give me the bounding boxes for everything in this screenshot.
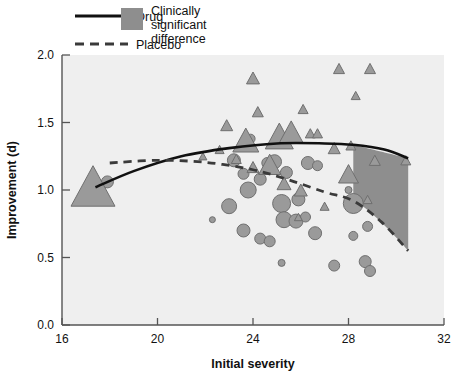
y-tick-label: 1.5 <box>37 116 54 130</box>
placebo-data-point <box>222 199 237 214</box>
placebo-data-point <box>273 195 291 213</box>
y-tick-label: 1.0 <box>37 183 54 197</box>
y-tick-label: 2.0 <box>37 48 54 62</box>
placebo-data-point <box>240 182 256 198</box>
legend-band-label-line1: Clinically <box>151 4 201 18</box>
chart-legend: Drug Placebo Clinically significant diff… <box>75 4 207 52</box>
placebo-data-point <box>363 221 373 231</box>
placebo-data-point <box>237 224 250 237</box>
y-axis-title: Improvement (d) <box>5 141 19 239</box>
placebo-data-point <box>209 217 215 223</box>
y-tick-label: 0.0 <box>37 318 54 332</box>
x-tick-label: 28 <box>342 332 356 346</box>
placebo-data-point <box>345 187 352 194</box>
x-tick-label: 32 <box>437 332 451 346</box>
placebo-data-point <box>349 231 358 240</box>
legend-band-label-line3: difference <box>151 32 206 46</box>
placebo-data-point <box>313 161 323 171</box>
x-tick-label: 20 <box>151 332 165 346</box>
placebo-data-point <box>278 259 285 266</box>
y-tick-label: 0.5 <box>37 251 54 265</box>
legend-band-label-line2: significant <box>151 18 207 32</box>
x-axis-title: Initial severity <box>211 357 294 371</box>
placebo-data-point <box>238 168 249 179</box>
scatter-chart-svg: Drug Placebo Clinically significant diff… <box>0 0 464 376</box>
placebo-data-point <box>309 227 322 240</box>
x-tick-label: 24 <box>246 332 260 346</box>
placebo-data-point <box>264 236 275 247</box>
placebo-data-point <box>365 266 376 277</box>
x-tick-label: 16 <box>55 332 69 346</box>
chart-figure: Drug Placebo Clinically significant diff… <box>0 0 464 376</box>
placebo-data-point <box>329 260 340 271</box>
legend-band-swatch <box>121 8 143 30</box>
